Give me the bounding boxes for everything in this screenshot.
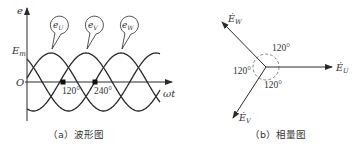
callout-eW: eW [120,16,138,49]
phasor-caption: （b）相量图 [250,129,306,140]
tick-240-label: 240° [94,86,112,96]
phasor-EW [222,22,266,67]
tick-120-label: 120° [62,86,80,96]
y-axis-label: e [17,5,23,16]
figure: e Em O ωt 120° 240° eU eV eW （a）波形图 120°… [0,0,352,151]
marker-120 [61,80,66,85]
origin-label: O [16,77,24,88]
phasor-diagram: 120° 120° 120° ĖU ĖW ĖV （b）相量图 [222,13,349,140]
peak-label: Em [11,45,26,58]
callout-eU: eU [50,16,68,49]
callout-eV: eV [85,16,103,49]
marker-240 [93,80,98,85]
EW-label: ĖW [227,13,243,26]
angle-top-label: 120° [272,43,290,53]
EU-label: ĖU [335,62,349,75]
angle-left-label: 120° [233,66,251,76]
waveform-diagram: e Em O ωt 120° 240° eU eV eW （a）波形图 [11,5,176,140]
EV-label: ĖV [238,112,252,125]
x-axis-label: ωt [163,88,176,99]
angle-bottom-label: 120° [264,80,282,90]
waveform-caption: （a）波形图 [48,129,104,140]
